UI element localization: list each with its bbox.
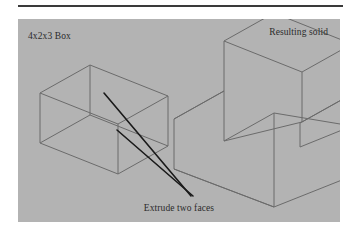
label-extrude-caption: Extrude two faces xyxy=(18,203,340,214)
resulting-solid-front-left-vertical xyxy=(174,91,224,119)
label-resulting-solid: Resulting solid xyxy=(269,27,328,38)
isometric-figure xyxy=(18,19,340,222)
source-box-edge-top-left xyxy=(40,65,90,93)
leader-lines xyxy=(104,93,193,196)
resulting-solid-top-face-tall xyxy=(224,41,340,72)
header-rule xyxy=(18,5,343,7)
resulting-solid-wireframe xyxy=(174,19,340,207)
source-box-back-face xyxy=(90,65,168,146)
resulting-solid-base-left xyxy=(174,169,274,207)
resulting-solid-step-top-face xyxy=(302,94,340,122)
source-box-edge-bottom-left xyxy=(40,115,90,143)
source-box-front-face xyxy=(40,93,118,174)
source-box-edge-top-right xyxy=(118,96,168,124)
resulting-solid-step-front-edge xyxy=(224,122,302,141)
figure-panel: 4x2x3 Box Resulting solid Extrude two fa… xyxy=(18,19,340,222)
slide-canvas: 4x2x3 Box Resulting solid Extrude two fa… xyxy=(0,0,356,232)
leader-upper-line xyxy=(104,93,191,196)
label-source-box: 4x2x3 Box xyxy=(28,31,71,42)
leader-lower-line xyxy=(117,130,193,196)
